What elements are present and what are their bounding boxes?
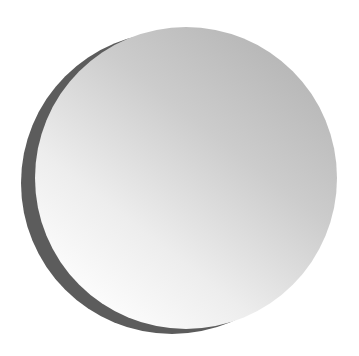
sphere-illustration — [0, 0, 359, 356]
sphere — [35, 27, 337, 329]
